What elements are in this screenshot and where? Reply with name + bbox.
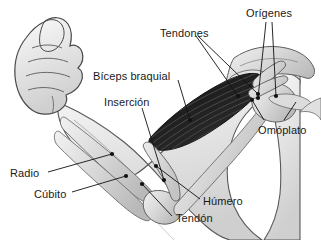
anatomy-diagram: Tendones Orígenes Bíceps braquial Inserc… [0,0,321,240]
label-radio: Radio [10,168,39,179]
dot-tendon-a [236,94,240,98]
dot-cubito [124,174,128,178]
label-humero: Húmero [203,196,243,207]
dot-humero [154,164,158,168]
label-omoplato: Omóplato [258,125,307,136]
dot-insercion [162,178,166,182]
label-tendones: Tendones [160,28,209,39]
label-insercion: Inserción [104,97,150,108]
dot-tendon-distal [140,182,144,186]
label-cubito: Cúbito [34,189,66,200]
label-tendon: Tendón [176,213,213,224]
dot-tendon-b [256,92,260,96]
dot-origin-b [274,94,278,98]
dot-radio [110,152,114,156]
dot-omoplato-a [250,98,254,102]
dot-biceps [188,118,192,122]
dot-origin-a [256,96,260,100]
label-biceps-braquial: Bíceps braquial [93,71,170,82]
label-origenes: Orígenes [246,8,292,19]
